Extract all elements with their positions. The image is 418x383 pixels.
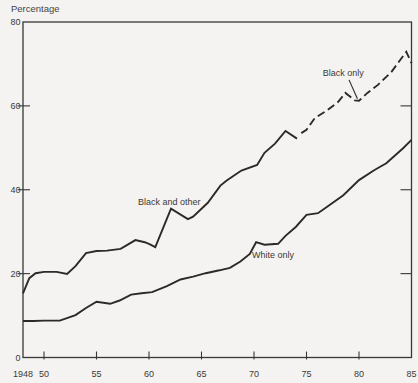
data-series: [23, 52, 412, 321]
x-axis-tick-label: 60: [144, 369, 154, 379]
series-annotations: Black and otherBlack onlyWhite only: [138, 68, 364, 260]
series-line-white-only: [23, 140, 412, 321]
x-axis-tick-label: 75: [301, 369, 311, 379]
chart-page: Percentage 02040608019485055606570758085…: [0, 0, 418, 383]
y-axis-tick-label: 0: [15, 353, 20, 363]
x-axis-tick-label: 80: [354, 369, 364, 379]
x-axis-tick-label: 85: [406, 369, 416, 379]
x-axis-tick-label: 70: [249, 369, 259, 379]
series-line-black-and-other: [23, 131, 297, 293]
x-axis-tick-label: 50: [39, 369, 49, 379]
x-axis-tick-label: 65: [196, 369, 206, 379]
series-label-black-and-other: Black and other: [138, 197, 201, 207]
y-axis-tick-label: 20: [10, 269, 20, 279]
x-axis-tick-label: 1948: [13, 369, 33, 379]
y-axis-tick-label: 40: [10, 185, 20, 195]
series-label-black-only: Black only: [323, 68, 365, 78]
x-axis-tick-label: 55: [91, 369, 101, 379]
chart-title: Percentage: [11, 3, 60, 14]
line-chart: Percentage 02040608019485055606570758085…: [0, 0, 418, 383]
y-axis-tick-label: 60: [10, 101, 20, 111]
y-axis-tick-label: 80: [10, 17, 20, 27]
series-line-black-only: [301, 52, 411, 133]
series-label-white-only: White only: [252, 250, 295, 260]
